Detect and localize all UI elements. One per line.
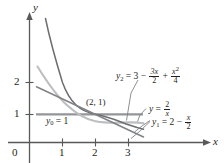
plot-svg — [0, 0, 224, 163]
hyperbola-equals: = — [156, 104, 161, 114]
y2-plus: + — [162, 71, 167, 81]
y2-frac1-denominator: 2 — [149, 76, 159, 85]
y2-frac2-numerator: x2 — [171, 66, 180, 76]
y1-equals: = 2 — [162, 117, 174, 127]
x-tick-label-1: 1 — [59, 147, 65, 158]
y2-fraction-2: x2 4 — [171, 66, 180, 86]
x-tick-label-3: 3 — [125, 147, 131, 158]
y1-denominator: 2 — [185, 122, 191, 131]
x-tick-label-2: 2 — [92, 147, 98, 158]
hyperbola-lhs: y — [149, 104, 153, 114]
hyperbola-numerator: 2 — [164, 101, 170, 109]
y2-equals: = 3 — [126, 71, 138, 81]
equation-label-y0: y0 = 1 — [46, 117, 68, 127]
y2-frac2-denominator: 4 — [171, 76, 180, 85]
y2-frac1-numerator: 3x — [149, 68, 159, 76]
curve-y1-line — [37, 87, 144, 137]
y2-frac2-exponent: 2 — [176, 65, 179, 72]
y-axis-arrow — [26, 12, 32, 20]
y1-fraction: x 2 — [185, 114, 191, 132]
equation-label-y2: y2 = 3 − 3x 2 + x2 4 — [116, 66, 181, 86]
origin-label: 0 — [12, 147, 18, 158]
equation-label-y1: y1 = 2 − x 2 — [152, 114, 192, 132]
y-tick-label-1: 1 — [14, 108, 20, 119]
y2-subscript: 2 — [120, 75, 123, 82]
y1-subscript: 1 — [156, 121, 159, 128]
point-label-2-1: (2, 1) — [86, 98, 106, 107]
x-axis-arrow — [203, 139, 211, 145]
figure-canvas: y x 0 1 2 3 1 2 (2, 1) y0 = 1 y2 = 3 − 3… — [0, 0, 224, 163]
y-tick-label-2: 2 — [14, 76, 20, 87]
y1-numerator: x — [185, 114, 191, 122]
y2-fraction-1: 3x 2 — [149, 68, 159, 86]
y-axis-label: y — [33, 2, 38, 13]
y0-rhs: = 1 — [56, 116, 68, 126]
y2-minus: − — [141, 71, 146, 81]
x-axis-label: x — [213, 136, 218, 147]
y0-subscript: 0 — [50, 119, 53, 126]
y1-minus: − — [177, 117, 182, 127]
